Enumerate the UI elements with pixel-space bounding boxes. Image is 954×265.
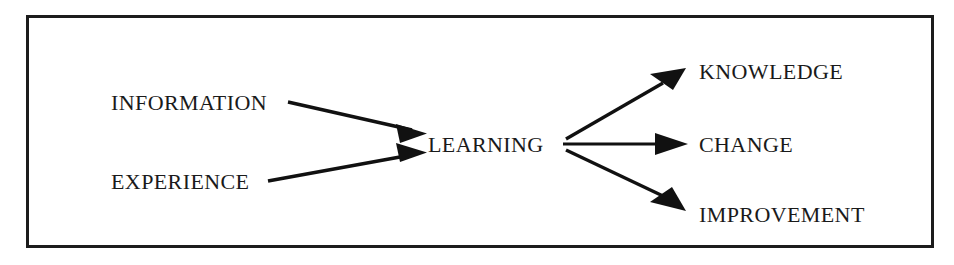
edge-line xyxy=(566,150,663,196)
arrow-head-icon xyxy=(655,133,688,155)
edge-learning-to-knowledge xyxy=(566,68,686,139)
edge-experience-to-learning xyxy=(268,143,427,181)
node-label-improvement: IMPROVEMENT xyxy=(699,202,865,227)
edge-line xyxy=(288,102,412,130)
node-label-knowledge: KNOWLEDGE xyxy=(699,59,843,84)
learning-flow-diagram: INFORMATION EXPERIENCE LEARNING KNOWLEDG… xyxy=(0,0,954,265)
node-label-experience: EXPERIENCE xyxy=(111,169,249,194)
arrow-head-icon xyxy=(396,124,427,143)
node-label-change: CHANGE xyxy=(699,132,793,157)
arrow-head-icon xyxy=(396,143,427,162)
edge-line xyxy=(268,157,400,181)
edge-line xyxy=(566,83,663,139)
node-label-learning: LEARNING xyxy=(428,132,544,157)
diagram-canvas: INFORMATION EXPERIENCE LEARNING KNOWLEDG… xyxy=(0,0,954,265)
node-label-information: INFORMATION xyxy=(111,90,267,115)
edge-learning-to-change xyxy=(563,133,688,155)
edge-learning-to-improvement xyxy=(566,150,686,211)
edge-information-to-learning xyxy=(288,102,427,143)
